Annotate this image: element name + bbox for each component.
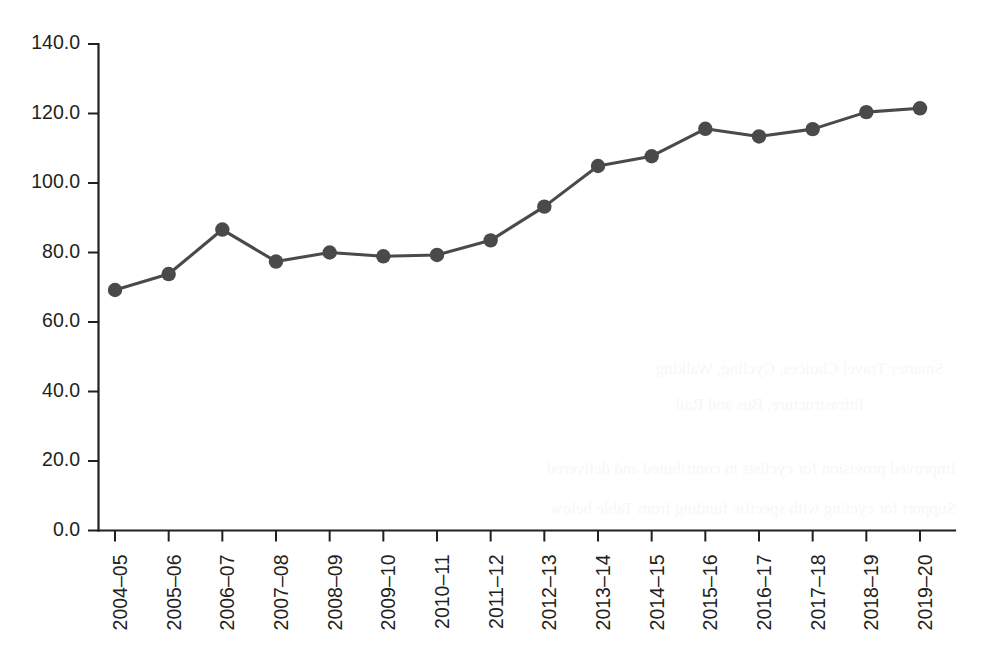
data-point-marker: [108, 283, 122, 297]
x-tick-label: 2006–07: [216, 555, 238, 631]
x-tick-label: 2019–20: [914, 554, 936, 630]
data-point-marker: [483, 233, 497, 247]
x-tick-label: 2011–12: [485, 555, 507, 629]
y-tick-label: 60.0: [42, 309, 80, 331]
data-point-marker: [215, 222, 229, 236]
x-tick-label: 2014–15: [646, 554, 668, 630]
data-point-marker: [537, 199, 551, 213]
data-point-marker: [752, 129, 766, 143]
y-tick-label: 140.0: [31, 31, 80, 53]
x-axis-tick-labels: 2004–052005–062006–072007–082008–092009–…: [109, 554, 936, 630]
y-axis-tick-labels: 0.020.040.060.080.0100.0120.0140.0: [31, 31, 80, 540]
x-tick-label: 2012–13: [538, 555, 560, 631]
data-point-marker: [591, 159, 605, 173]
data-point-marker: [913, 101, 927, 115]
data-point-marker: [698, 122, 712, 136]
y-tick-label: 80.0: [42, 240, 80, 262]
x-tick-label: 2008–09: [324, 555, 346, 631]
x-tick-label: 2013–14: [592, 554, 614, 630]
y-tick-label: 40.0: [42, 379, 80, 401]
x-tick-label: 2010–11: [431, 555, 453, 629]
x-tick-label: 2016–17: [753, 555, 775, 631]
data-point-marker: [644, 149, 658, 163]
data-point-marker: [161, 267, 175, 281]
x-tick-label: 2007–08: [270, 555, 292, 631]
data-point-marker: [376, 249, 390, 263]
data-point-marker: [322, 245, 336, 259]
data-point-marker: [805, 122, 819, 136]
x-axis-ticks: [115, 531, 920, 542]
x-tick-label: 2009–10: [377, 554, 399, 630]
line-chart: 0.020.040.060.080.0100.0120.0140.0 2004–…: [0, 0, 984, 658]
y-tick-label: 120.0: [31, 101, 80, 123]
x-tick-label: 2017–18: [807, 555, 829, 631]
data-point-marker: [430, 248, 444, 262]
y-tick-label: 0.0: [53, 518, 80, 540]
data-point-marker: [859, 105, 873, 119]
y-tick-label: 20.0: [42, 448, 80, 470]
x-tick-label: 2018–19: [860, 555, 882, 631]
series-line-1: [115, 108, 920, 290]
data-point-marker: [269, 254, 283, 268]
chart-container: Smarter Travel Choices, Cycling, Walking…: [0, 0, 984, 658]
x-tick-label: 2015–16: [699, 555, 721, 631]
x-tick-label: 2005–06: [163, 555, 185, 631]
y-axis-ticks: [88, 44, 99, 531]
y-tick-label: 100.0: [31, 170, 80, 192]
x-tick-label: 2004–05: [109, 554, 131, 630]
